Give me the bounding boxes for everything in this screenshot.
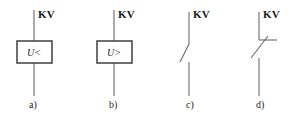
symbol-b-terminal-label: KV	[118, 9, 135, 20]
symbol-c-contact-blade	[180, 44, 189, 62]
symbol-b-box-label: U>	[107, 48, 121, 58]
symbol-c-terminal-label: KV	[193, 9, 210, 20]
symbol-c-normally-open-contact	[180, 12, 189, 96]
symbol-d-normally-closed-contact	[251, 12, 277, 96]
symbol-d-terminal-label: KV	[263, 9, 280, 20]
symbol-a-box-label: U<	[27, 48, 41, 58]
symbol-a-terminal-label: KV	[38, 9, 55, 20]
schematic-figure: KV KV KV KV U< U> a) b) c) d)	[0, 0, 289, 122]
symbol-a-caption: a)	[29, 100, 37, 110]
symbol-b-caption: b)	[109, 100, 117, 110]
symbol-c-caption: c)	[186, 100, 194, 110]
symbol-d-caption: d)	[256, 100, 264, 110]
symbol-d-contact-blade	[251, 36, 268, 58]
